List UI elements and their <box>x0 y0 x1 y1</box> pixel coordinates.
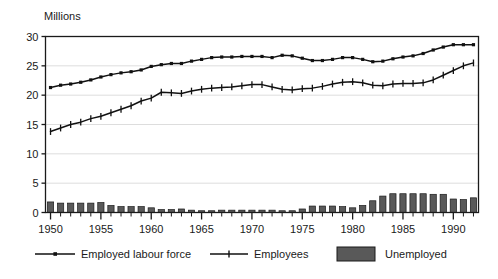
marker-square <box>341 56 344 59</box>
x-tick-label: 1970 <box>240 223 264 235</box>
bar-unemployed <box>410 194 416 213</box>
legend-swatch-unemployed <box>337 247 375 261</box>
marker-square <box>411 54 414 57</box>
marker-square <box>69 82 72 85</box>
legend-label-unemployed: Unemployed <box>385 248 447 260</box>
bar-unemployed <box>390 194 396 213</box>
marker-square <box>170 62 173 65</box>
marker-square <box>79 81 82 84</box>
x-tick-label: 1965 <box>189 223 213 235</box>
bar-unemployed <box>430 194 436 212</box>
y-tick-label: 25 <box>26 60 38 72</box>
bar-unemployed <box>57 203 63 212</box>
bar-unemployed <box>380 196 386 212</box>
marker-square <box>250 55 253 58</box>
x-axis-tick-labels: 195019551960196519701975198019851990 <box>38 223 465 235</box>
marker-square <box>240 55 243 58</box>
bar-unemployed <box>470 198 476 213</box>
x-tick-label: 1950 <box>38 223 62 235</box>
bar-unemployed <box>350 208 356 213</box>
y-tick-label: 0 <box>32 207 38 219</box>
marker-square <box>422 52 425 55</box>
x-tick-label: 1975 <box>290 223 314 235</box>
bar-unemployed <box>309 206 315 212</box>
marker-square <box>281 54 284 57</box>
bar-unemployed <box>440 194 446 212</box>
x-tick-label: 1960 <box>139 223 163 235</box>
marker-square <box>59 84 62 87</box>
bar-unemployed <box>138 207 144 213</box>
x-tick-label: 1980 <box>340 223 364 235</box>
marker-square <box>391 57 394 60</box>
marker-square <box>371 60 374 63</box>
bar-unemployed <box>47 202 53 213</box>
y-tick-label: 10 <box>26 148 38 160</box>
marker-square <box>270 56 273 59</box>
marker-square <box>220 55 223 58</box>
marker-square <box>150 65 153 68</box>
bar-unemployed <box>460 200 466 213</box>
marker-square <box>160 63 163 66</box>
marker-square <box>129 70 132 73</box>
marker-square <box>190 60 193 63</box>
marker-square <box>49 86 52 89</box>
marker-square <box>452 43 455 46</box>
legend-label-employees: Employees <box>254 248 309 260</box>
y-axis-label: Millions <box>44 10 81 22</box>
bar-unemployed <box>329 206 335 212</box>
bar-unemployed <box>400 194 406 213</box>
marker-square <box>200 58 203 61</box>
x-tick-label: 1990 <box>441 223 465 235</box>
marker-square <box>311 59 314 62</box>
y-tick-label: 20 <box>26 89 38 101</box>
marker-square <box>180 62 183 65</box>
bar-unemployed <box>128 207 134 213</box>
bar-unemployed <box>339 207 345 213</box>
bar-unemployed <box>148 208 154 213</box>
marker-square <box>472 43 475 46</box>
chart-background <box>0 0 498 279</box>
marker-square <box>291 54 294 57</box>
y-tick-label: 15 <box>26 119 38 131</box>
y-tick-label: 30 <box>26 31 38 43</box>
x-tick-label: 1985 <box>391 223 415 235</box>
marker-square <box>89 78 92 81</box>
marker-square <box>230 55 233 58</box>
legend-marker-square <box>53 252 57 256</box>
bar-unemployed <box>360 205 366 212</box>
marker-square <box>462 43 465 46</box>
bar-unemployed <box>319 206 325 212</box>
marker-square <box>432 48 435 51</box>
bar-unemployed <box>98 203 104 213</box>
legend-label-employed-labour-force: Employed labour force <box>81 248 191 260</box>
marker-square <box>442 45 445 48</box>
bar-unemployed <box>118 207 124 213</box>
marker-square <box>401 55 404 58</box>
bar-unemployed <box>88 203 94 212</box>
x-tick-label: 1955 <box>89 223 113 235</box>
marker-square <box>119 71 122 74</box>
bar-unemployed <box>450 199 456 212</box>
marker-square <box>140 68 143 71</box>
marker-square <box>331 58 334 61</box>
marker-square <box>321 59 324 62</box>
bar-unemployed <box>370 201 376 213</box>
marker-square <box>99 75 102 78</box>
bar-unemployed <box>420 194 426 213</box>
marker-square <box>109 73 112 76</box>
marker-square <box>210 56 213 59</box>
marker-square <box>381 60 384 63</box>
y-tick-label: 5 <box>32 177 38 189</box>
marker-square <box>301 57 304 60</box>
bar-unemployed <box>108 205 114 212</box>
marker-square <box>361 58 364 61</box>
chart-figure: 195019551960196519701975198019851990 051… <box>0 0 498 279</box>
marker-square <box>351 56 354 59</box>
marker-square <box>260 55 263 58</box>
bar-unemployed <box>78 203 84 212</box>
employment-chart: 195019551960196519701975198019851990 051… <box>0 0 498 279</box>
bar-unemployed <box>68 203 74 212</box>
